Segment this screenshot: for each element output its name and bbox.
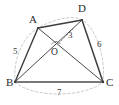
- measure-label-DC: 6: [97, 40, 102, 49]
- vertex-label-C: C: [106, 77, 113, 88]
- measure-label-OD: 3: [68, 31, 73, 40]
- vertex-label-D: D: [78, 3, 86, 14]
- vertex-label-O: O: [51, 48, 58, 58]
- vertex-dot-C: [102, 81, 104, 83]
- edge-AB: [15, 28, 38, 82]
- measure-label-BC: 7: [57, 88, 62, 97]
- vertex-dot-D: [81, 19, 83, 21]
- vertex-label-B: B: [6, 77, 13, 88]
- vertex-label-A: A: [29, 14, 37, 25]
- geometry-figure: A D B C O 5 6 3 7: [0, 0, 119, 105]
- measure-label-AB: 5: [13, 47, 18, 56]
- vertex-dot-B: [14, 81, 16, 83]
- vertex-dot-A: [37, 27, 39, 29]
